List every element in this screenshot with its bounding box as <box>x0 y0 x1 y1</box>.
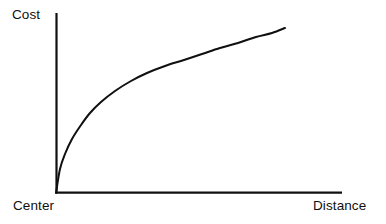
cost-curve <box>56 28 285 193</box>
cost-vs-distance-chart: Cost Center Distance <box>0 0 386 224</box>
x-axis-end-label: Distance <box>313 199 366 213</box>
x-axis-origin-label: Center <box>13 199 54 213</box>
y-axis-label: Cost <box>12 8 40 22</box>
plot-area <box>0 0 386 224</box>
